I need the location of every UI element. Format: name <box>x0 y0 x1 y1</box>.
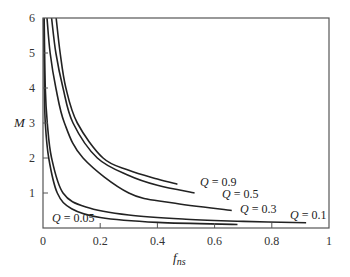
y-tick-label: 3 <box>29 116 35 130</box>
curves <box>44 18 307 225</box>
y-tick-label: 1 <box>29 186 35 200</box>
x-tick-label: 1 <box>326 234 332 248</box>
x-tick-label: 0.4 <box>150 234 165 248</box>
curve-annotations: Q = 0.9Q = 0.5Q = 0.3Q = 0.1Q = 0.05 <box>52 175 326 225</box>
annotation-q-0-05: Q = 0.05 <box>52 211 94 225</box>
x-tick-label: 0.6 <box>207 234 222 248</box>
x-axis-ticks: 00.20.40.60.81 <box>40 223 332 248</box>
curve-q-0-5 <box>52 18 195 193</box>
chart: 00.20.40.60.81 123456 M fns Q = 0.9Q = 0… <box>0 0 350 277</box>
annotation-q-0-3: Q = 0.3 <box>240 202 276 216</box>
x-tick-label: 0 <box>40 234 46 248</box>
y-axis-label: M <box>13 115 26 130</box>
x-tick-label: 0.2 <box>93 234 108 248</box>
annotation-q-0-1: Q = 0.1 <box>290 208 326 222</box>
x-tick-label: 0.8 <box>264 234 279 248</box>
y-tick-label: 2 <box>29 151 35 165</box>
annotation-q-0-5: Q = 0.5 <box>222 187 258 201</box>
y-tick-label: 5 <box>29 46 35 60</box>
curve-q-0-1 <box>44 18 306 223</box>
x-axis-label: fns <box>173 250 186 267</box>
y-tick-label: 4 <box>29 81 35 95</box>
curve-q-0-9 <box>56 18 177 184</box>
plot-frame <box>43 18 329 228</box>
y-tick-label: 6 <box>29 11 35 25</box>
